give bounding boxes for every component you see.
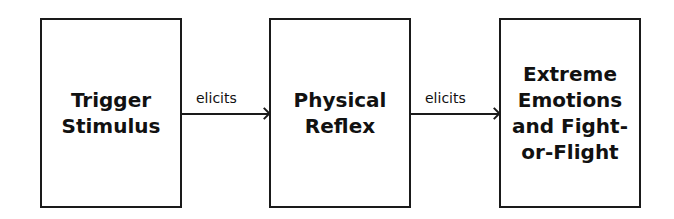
node-trigger-stimulus: Trigger Stimulus — [40, 18, 182, 208]
node-label: Extreme Emotions and Fight- or-Flight — [512, 61, 628, 165]
node-label: Trigger Stimulus — [62, 87, 161, 139]
node-physical-reflex: Physical Reflex — [269, 18, 411, 208]
edge-label: elicits — [425, 90, 466, 106]
arrow-icon — [182, 113, 269, 115]
edge-label: elicits — [196, 90, 237, 106]
node-label: Physical Reflex — [294, 87, 387, 139]
arrow-icon — [411, 113, 499, 115]
node-extreme-emotions: Extreme Emotions and Fight- or-Flight — [499, 18, 641, 208]
